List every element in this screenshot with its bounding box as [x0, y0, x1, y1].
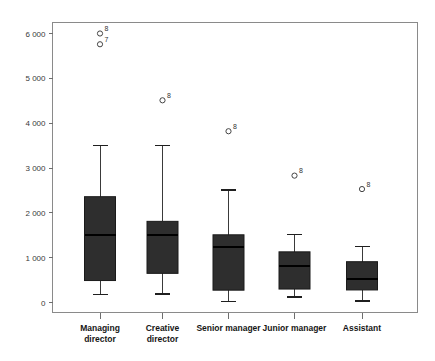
- y-tick-label: 0: [41, 299, 46, 308]
- category-axis-label: Assistant: [343, 323, 381, 333]
- category-axis-label: Creativedirector: [146, 323, 180, 344]
- outlier-case-label: 8: [233, 123, 237, 130]
- box-iqr: [147, 221, 178, 273]
- y-tick-label: 6 000: [25, 30, 46, 39]
- box-iqr: [347, 262, 378, 290]
- y-tick-label: 2 000: [25, 209, 46, 218]
- boxplot-canvas: 01 0002 0003 0004 0005 0006 000 878888 M…: [0, 0, 435, 361]
- y-tick-label: 1 000: [25, 254, 46, 263]
- box-iqr: [213, 235, 244, 290]
- outlier-case-label: 8: [299, 167, 303, 174]
- outlier-case-label: 8: [105, 25, 109, 32]
- y-tick-label: 3 000: [25, 164, 46, 173]
- category-axis-label: Managingdirector: [80, 323, 120, 344]
- y-tick-label: 4 000: [25, 119, 46, 128]
- box-iqr: [279, 252, 310, 289]
- category-axis-label: Senior manager: [196, 323, 261, 333]
- box-iqr: [85, 197, 116, 281]
- y-tick-label: 5 000: [25, 74, 46, 83]
- category-axis-label: Junior manager: [263, 323, 327, 333]
- outlier-case-label: 7: [105, 36, 109, 43]
- boxplot-chart: 01 0002 0003 0004 0005 0006 000 878888 M…: [0, 0, 435, 361]
- outlier-case-label: 8: [367, 181, 371, 188]
- outlier-case-label: 8: [167, 92, 171, 99]
